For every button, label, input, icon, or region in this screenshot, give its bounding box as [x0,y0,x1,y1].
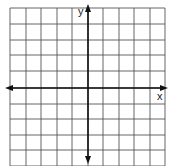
y-axis-down-arrow-icon [85,156,91,164]
x-axis-label: x [157,91,163,102]
y-axis-label: y [78,6,84,17]
coordinate-grid [0,0,174,166]
axes [5,4,168,164]
x-axis-left-arrow-icon [5,85,13,91]
